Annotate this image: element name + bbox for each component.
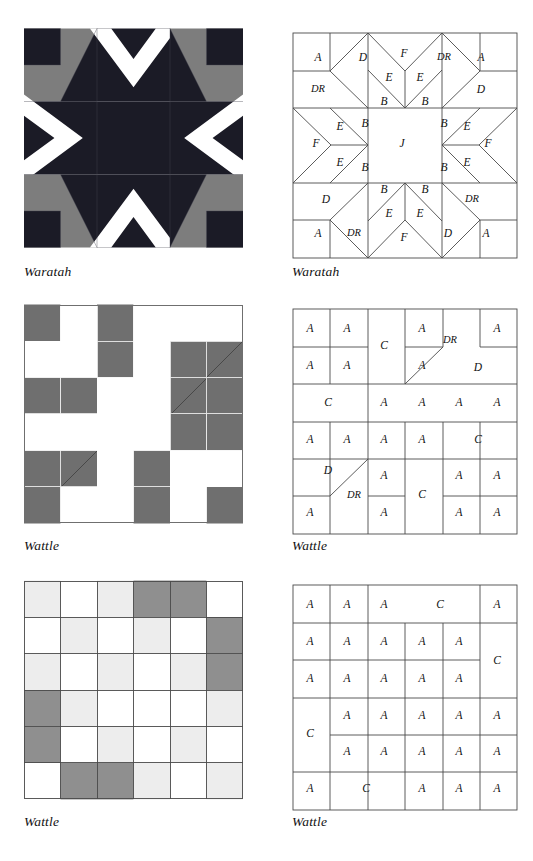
wattle2-cell-r3c2 bbox=[97, 690, 134, 727]
waratah-label-d-1: D bbox=[358, 51, 368, 63]
wattle2-cell-r1c2 bbox=[97, 617, 134, 654]
wattle2-label-a-12: A bbox=[342, 672, 351, 684]
block-caption-waratah: Waratah bbox=[24, 264, 71, 280]
waratah-label-a-32: A bbox=[481, 227, 490, 239]
pattern-diagram-wattle-2: AAACAAAAAACAAAAACAAAAAAAAAAACAAA bbox=[292, 584, 518, 811]
wattle2-cell-r2c0 bbox=[24, 654, 61, 691]
wattle2-label-a-1: A bbox=[342, 598, 351, 610]
waratah-label-a-0: A bbox=[313, 51, 322, 63]
diagram-caption-wattle-2: Wattle bbox=[292, 814, 327, 830]
quilt-block-wattle-1 bbox=[24, 303, 243, 525]
wattle2-cell-r0c5 bbox=[207, 581, 244, 618]
wattle1-label-a-16: A bbox=[342, 433, 351, 445]
wattle2-cell-r4c0 bbox=[24, 727, 61, 764]
wattle2-label-a-0: A bbox=[305, 598, 314, 610]
wattle2-label-c-16: C bbox=[306, 727, 314, 739]
diagram-caption-wattle-1: Wattle bbox=[292, 538, 327, 554]
wattle1-cell-r0c3 bbox=[134, 305, 171, 342]
wattle2-cell-r1c1 bbox=[61, 617, 98, 654]
wattle2-label-a-30: A bbox=[454, 782, 463, 794]
wattle1-cell-r2c1 bbox=[61, 378, 98, 415]
wattle2-cell-r1c5 bbox=[207, 617, 244, 654]
wattle1-cell-r1c0 bbox=[24, 341, 61, 378]
wattle2-label-a-25: A bbox=[454, 745, 463, 757]
wattle2-cell-r0c4 bbox=[170, 581, 207, 618]
wattle2-label-a-23: A bbox=[379, 745, 388, 757]
wattle1-label-d-9: D bbox=[473, 361, 483, 373]
wattle1-label-a-11: A bbox=[379, 396, 388, 408]
wattle2-cell-r5c0 bbox=[24, 763, 61, 800]
wattle1-cell-r5c5 bbox=[207, 487, 244, 524]
wattle1-cell-r4c2 bbox=[97, 451, 134, 488]
quilt-block-waratah bbox=[24, 27, 243, 249]
wattle1-cell-r4c4 bbox=[170, 451, 207, 488]
wattle2-label-a-4: A bbox=[492, 598, 501, 610]
wattle1-label-a-17: A bbox=[379, 433, 388, 445]
wattle2-label-a-27: A bbox=[305, 782, 314, 794]
wattle1-cell-r5c3 bbox=[134, 487, 171, 524]
wattle2-cell-r3c4 bbox=[170, 690, 207, 727]
waratah-label-b-24: B bbox=[421, 183, 428, 195]
waratah-label-b-20: B bbox=[440, 161, 447, 173]
wattle1-cell-r2c3 bbox=[134, 378, 171, 415]
waratah-label-b-12: B bbox=[361, 117, 368, 129]
waratah-label-f-2: F bbox=[399, 47, 408, 59]
quilt-pattern-page: Waratah bbox=[0, 0, 533, 861]
wattle1-label-a-0: A bbox=[305, 322, 314, 334]
wattle1-label-a-18: A bbox=[417, 433, 426, 445]
wattle1-label-dr-21: DR bbox=[346, 489, 362, 500]
wattle2-cell-r3c1 bbox=[61, 690, 98, 727]
wattle2-label-a-26: A bbox=[492, 745, 501, 757]
wattle2-cell-r0c0 bbox=[24, 581, 61, 618]
wattle2-label-a-14: A bbox=[417, 672, 426, 684]
wattle1-cell-r3c0 bbox=[24, 414, 61, 451]
wattle1-label-a-6: A bbox=[305, 359, 314, 371]
wattle2-label-a-7: A bbox=[379, 635, 388, 647]
wattle2-cell-r4c1 bbox=[61, 727, 98, 764]
wattle1-cell-r4c3 bbox=[134, 451, 171, 488]
wattle2-cell-r3c0 bbox=[24, 690, 61, 727]
waratah-label-dr-5: DR bbox=[310, 83, 326, 94]
wattle2-cell-r4c4 bbox=[170, 727, 207, 764]
wattle1-label-dr-4: DR bbox=[442, 334, 458, 345]
wattle1-label-a-22: A bbox=[379, 469, 388, 481]
wattle2-cell-r0c2 bbox=[97, 581, 134, 618]
waratah-label-dr-3: DR bbox=[436, 51, 452, 62]
wattle2-cell-r2c3 bbox=[134, 654, 171, 691]
wattle2-cell-r1c3 bbox=[134, 617, 171, 654]
waratah-label-b-23: B bbox=[380, 183, 387, 195]
wattle2-label-a-5: A bbox=[305, 635, 314, 647]
waratah-label-e-18: E bbox=[335, 156, 343, 168]
wattle1-cell-r3c4 bbox=[170, 414, 207, 451]
wattle1-label-a-26: A bbox=[305, 506, 314, 518]
wattle1-label-a-25: A bbox=[492, 469, 501, 481]
waratah-label-dr-27: DR bbox=[464, 193, 480, 204]
wattle1-label-a-8: A bbox=[417, 359, 426, 371]
wattle2-cell-r2c4 bbox=[170, 654, 207, 691]
wattle1-label-a-12: A bbox=[417, 396, 426, 408]
wattle2-cell-r2c5 bbox=[207, 654, 244, 691]
wattle1-cell-r4c5 bbox=[207, 451, 244, 488]
wattle1-label-a-28: A bbox=[454, 506, 463, 518]
waratah-label-d-10: D bbox=[476, 83, 486, 95]
wattle1-label-a-14: A bbox=[492, 396, 501, 408]
wattle2-label-a-20: A bbox=[454, 709, 463, 721]
wattle2-label-a-18: A bbox=[379, 709, 388, 721]
wattle1-cell-r0c0 bbox=[24, 305, 61, 342]
wattle1-cell-r3c2 bbox=[97, 414, 134, 451]
waratah-label-j-16: J bbox=[399, 137, 405, 149]
wattle2-cell-r5c4 bbox=[170, 763, 207, 800]
wattle1-cell-r1c1 bbox=[61, 341, 98, 378]
wattle1-label-a-27: A bbox=[379, 506, 388, 518]
wattle1-label-a-13: A bbox=[454, 396, 463, 408]
wattle1-label-c-10: C bbox=[324, 396, 332, 408]
wattle2-label-c-3: C bbox=[436, 598, 444, 610]
quilt-block-wattle-2 bbox=[24, 579, 243, 801]
block-caption-wattle-1: Wattle bbox=[24, 538, 59, 554]
pattern-diagram-waratah: ADFDRADREEBBDEBBEFJFEBBEDBBEEDRADRFDA bbox=[292, 32, 518, 259]
wattle1-label-c-19: C bbox=[474, 433, 482, 445]
wattle2-cell-r5c1 bbox=[61, 763, 98, 800]
wattle1-label-a-5: A bbox=[492, 322, 501, 334]
wattle1-cell-r1c3 bbox=[134, 341, 171, 378]
wattle2-label-a-11: A bbox=[305, 672, 314, 684]
